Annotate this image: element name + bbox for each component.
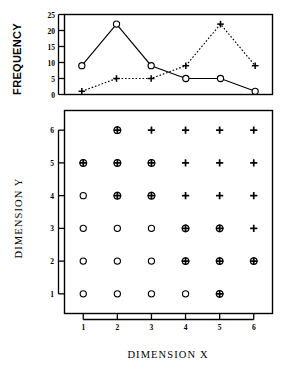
scatter-marker-circled-plus-x4-y2 <box>182 257 190 265</box>
scatter-marker-circle-x3-y2 <box>148 258 154 264</box>
frequency-plus-point <box>79 88 86 95</box>
frequency-circle-series <box>79 21 259 94</box>
scatter-marker-circled-plus-x5-y3 <box>216 224 224 232</box>
scatter-marker-circled-plus-x3-y4 <box>148 192 156 200</box>
frequency-y-tick-marks <box>59 15 65 95</box>
scatter-ytick-label-4: 4 <box>50 192 54 201</box>
frequency-circle-point <box>79 63 85 69</box>
scatter-y-axis: 123456 <box>50 126 64 299</box>
frequency-plus-point <box>113 75 120 82</box>
scatter-marker-plus-x6-y6 <box>250 127 257 134</box>
scatter-xtick-label-5: 5 <box>218 323 222 332</box>
frequency-circle-point <box>113 21 119 27</box>
frequency-ytick-5: 5 <box>51 75 55 84</box>
scatter-marker-circled-plus-x6-y2 <box>250 257 258 265</box>
scatter-xtick-label-1: 1 <box>81 323 85 332</box>
frequency-ytick-25: 25 <box>48 11 56 20</box>
scatter-marker-circle-x3-y3 <box>148 225 154 231</box>
scatter-marker-plus-x5-y5 <box>216 159 223 166</box>
scatter-marker-plus-x3-y6 <box>148 127 155 134</box>
scatter-marker-plus-x5-y6 <box>216 127 223 134</box>
frequency-ytick-20: 20 <box>48 27 56 36</box>
frequency-circle-point <box>148 63 154 69</box>
frequency-circle-point <box>217 75 223 81</box>
scatter-marker-plus-x6-y5 <box>250 159 257 166</box>
dimension-x-axis-title: DIMENSION X <box>127 349 208 360</box>
frequency-plus-point <box>183 62 190 69</box>
scatter-marker-circled-plus-x5-y2 <box>216 257 224 265</box>
scatter-marker-circle-x1-y4 <box>80 193 86 199</box>
scatter-xtick-label-6: 6 <box>252 323 256 332</box>
scatter-marker-circled-plus-x3-y5 <box>148 159 156 167</box>
scatter-marker-circle-x1-y3 <box>80 225 86 231</box>
scatter-marker-circled-plus-x2-y4 <box>113 192 121 200</box>
frequency-circle-point <box>183 75 189 81</box>
scatter-marker-layer <box>79 126 257 298</box>
scatter-marker-circled-plus-x4-y3 <box>182 224 190 232</box>
scatter-xtick-label-3: 3 <box>150 323 154 332</box>
frequency-plot-frame <box>65 15 273 95</box>
scatter-marker-circle-x1-y1 <box>80 291 86 297</box>
scatter-marker-circled-plus-x2-y5 <box>113 159 121 167</box>
dimension-y-axis-title: DIMENSION Y <box>13 178 24 259</box>
scatter-marker-circled-plus-x5-y1 <box>216 290 224 298</box>
scatter-marker-plus-x6-y4 <box>250 192 257 199</box>
dimension-scatter-grid: DIMENSION Y 123456 123456 DIMENSION X <box>13 111 273 361</box>
scatter-marker-plus-x4-y6 <box>182 127 189 134</box>
scatter-marker-plus-x5-y4 <box>216 192 223 199</box>
frequency-ytick-15: 15 <box>48 43 56 52</box>
frequency-ytick-10: 10 <box>48 59 56 68</box>
scatter-ytick-label-1: 1 <box>50 290 54 299</box>
scatter-ytick-label-3: 3 <box>50 224 54 233</box>
scatter-marker-circle-x2-y2 <box>114 258 120 264</box>
scatter-x-axis: 123456 <box>81 314 256 333</box>
scatter-xtick-label-4: 4 <box>184 323 188 332</box>
scatter-marker-plus-x4-y5 <box>182 159 189 166</box>
frequency-y-axis: 25 20 15 10 5 0 <box>48 11 65 100</box>
scatter-marker-circle-x1-y2 <box>80 258 86 264</box>
scatter-ytick-label-5: 5 <box>50 159 54 168</box>
frequency-line-chart: FREQUENCY 25 20 15 10 5 0 <box>11 11 273 100</box>
scatter-marker-plus-x4-y4 <box>182 192 189 199</box>
scatter-marker-circle-x2-y3 <box>114 225 120 231</box>
frequency-axis-title: FREQUENCY <box>11 23 23 95</box>
figure-container: FREQUENCY 25 20 15 10 5 0 <box>0 0 283 373</box>
frequency-circle-point <box>252 88 258 94</box>
frequency-ytick-0: 0 <box>51 91 55 100</box>
scatter-marker-circled-plus-x1-y5 <box>79 159 87 167</box>
scatter-marker-plus-x6-y3 <box>250 225 257 232</box>
scatter-ytick-label-2: 2 <box>50 257 54 266</box>
scatter-marker-circle-x4-y1 <box>182 291 188 297</box>
frequency-plus-point <box>148 75 155 82</box>
frequency-plus-series <box>79 21 259 95</box>
scatter-xtick-label-2: 2 <box>115 323 119 332</box>
figure-svg: FREQUENCY 25 20 15 10 5 0 <box>0 0 283 373</box>
scatter-marker-circle-x2-y1 <box>114 291 120 297</box>
scatter-marker-circled-plus-x2-y6 <box>113 126 121 134</box>
scatter-ytick-label-6: 6 <box>50 126 54 135</box>
scatter-plot-frame <box>65 111 273 314</box>
scatter-marker-circle-x3-y1 <box>148 291 154 297</box>
